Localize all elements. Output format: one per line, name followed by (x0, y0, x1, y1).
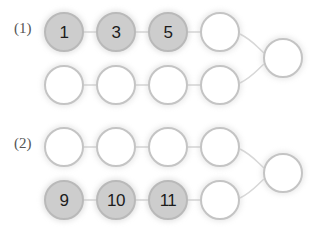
node-label: 1 (60, 24, 69, 41)
group-label-1: (1) (14, 20, 32, 37)
node-2-top_row-1[interactable] (44, 127, 84, 167)
node-2-top_row-4[interactable] (200, 127, 240, 167)
edge-g2-bottom-to-end (240, 179, 264, 198)
node-label: 9 (60, 192, 69, 209)
group-label-2: (2) (14, 135, 32, 152)
node-2-bottom_row-2[interactable]: 10 (96, 180, 136, 220)
edge-g2-top-to-end (240, 149, 264, 168)
node-1-top_row-3[interactable]: 5 (148, 12, 188, 52)
node-1-bottom_row-1[interactable] (44, 65, 84, 105)
node-2-bottom_row-1[interactable]: 9 (44, 180, 84, 220)
edge-g1-bottom-to-end (240, 64, 264, 83)
node-chain-diagram: (1)135(2)91011 (0, 0, 318, 230)
node-2-top_row-2[interactable] (96, 127, 136, 167)
node-label: 3 (112, 24, 121, 41)
node-1-bottom_row-2[interactable] (96, 65, 136, 105)
node-label: 10 (107, 192, 125, 209)
node-1-end[interactable] (263, 38, 303, 78)
node-1-bottom_row-3[interactable] (148, 65, 188, 105)
node-2-end[interactable] (263, 153, 303, 193)
node-2-bottom_row-3[interactable]: 11 (148, 180, 188, 220)
node-2-bottom_row-4[interactable] (200, 180, 240, 220)
node-1-top_row-2[interactable]: 3 (96, 12, 136, 52)
node-1-bottom_row-4[interactable] (200, 65, 240, 105)
node-label: 11 (160, 192, 177, 209)
node-label: 5 (164, 24, 173, 41)
node-1-top_row-4[interactable] (200, 12, 240, 52)
node-1-top_row-1[interactable]: 1 (44, 12, 84, 52)
edge-g1-top-to-end (240, 34, 264, 53)
node-2-top_row-3[interactable] (148, 127, 188, 167)
